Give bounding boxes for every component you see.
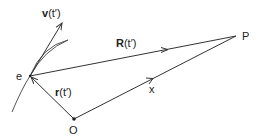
point-P-label: P bbox=[242, 30, 249, 42]
velocity-label: v(t′) bbox=[42, 7, 61, 19]
r-label-arg: (t′) bbox=[59, 86, 71, 98]
point-e-label: e bbox=[16, 70, 22, 82]
R-label-symbol: R bbox=[116, 37, 124, 49]
r-vector bbox=[31, 77, 74, 119]
point-O-label: O bbox=[69, 124, 78, 136]
vector-diagram: e P O v(t′) R(t′) r(t′) x bbox=[0, 0, 264, 138]
R-vector-label: R(t′) bbox=[116, 37, 136, 49]
x-vector-line bbox=[74, 36, 236, 119]
velocity-vector bbox=[30, 23, 62, 76]
velocity-label-arg: (t′) bbox=[48, 7, 60, 19]
x-vector-label: x bbox=[149, 83, 155, 95]
r-vector-label: r(t′) bbox=[55, 86, 72, 98]
point-O-dot bbox=[72, 117, 76, 121]
R-label-arg: (t′) bbox=[124, 37, 136, 49]
point-e-dot bbox=[29, 75, 31, 77]
